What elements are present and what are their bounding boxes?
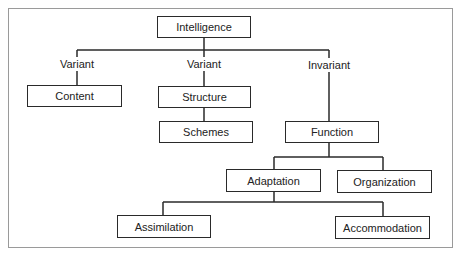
edge-label-variant-structure: Variant [185, 58, 223, 70]
node-adaptation: Adaptation [226, 169, 321, 192]
edge-label-variant-content: Variant [58, 58, 96, 70]
node-accommodation: Accommodation [335, 216, 430, 239]
node-intelligence: Intelligence [157, 16, 251, 38]
node-structure: Structure [158, 86, 251, 108]
node-schemes: Schemes [159, 121, 253, 143]
node-content: Content [27, 85, 122, 107]
node-function: Function [285, 121, 379, 143]
node-assimilation: Assimilation [117, 215, 211, 238]
node-organization: Organization [337, 170, 432, 193]
edge-label-invariant-function: Invariant [306, 59, 352, 71]
